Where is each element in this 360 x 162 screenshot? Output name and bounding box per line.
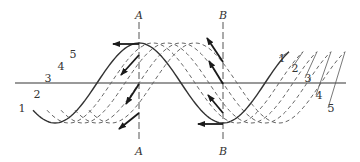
arrow-icon bbox=[209, 61, 223, 84]
section-label-top-b: B bbox=[218, 9, 227, 22]
wave-diagram: AABB 1234512345 bbox=[0, 0, 360, 162]
label-leader bbox=[328, 52, 345, 108]
curve-label-right-5: 5 bbox=[328, 102, 335, 115]
arrow-icon bbox=[207, 38, 223, 62]
curve-label-right-1: 1 bbox=[279, 52, 286, 65]
label-leader bbox=[316, 52, 331, 95]
curve-label-left-2: 2 bbox=[34, 88, 41, 101]
section-label-bottom-b: B bbox=[218, 145, 227, 158]
curve-label-right-3: 3 bbox=[305, 72, 312, 85]
wave-diagram-canvas: AABB 1234512345 bbox=[0, 0, 360, 162]
curve-labels: 1234512345 bbox=[19, 48, 346, 115]
section-label-bottom-a: A bbox=[134, 145, 143, 158]
arrow-icon bbox=[126, 84, 139, 104]
section-label-top-a: A bbox=[134, 9, 143, 22]
curve-label-left-3: 3 bbox=[45, 72, 52, 85]
curve-label-left-4: 4 bbox=[58, 60, 65, 73]
curve-label-right-4: 4 bbox=[316, 89, 323, 102]
arrow-icon bbox=[119, 113, 139, 129]
curve-label-left-5: 5 bbox=[70, 48, 77, 61]
curve-label-left-1: 1 bbox=[19, 102, 26, 115]
